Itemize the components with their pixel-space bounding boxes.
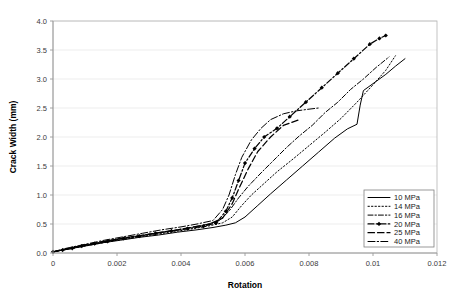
legend-label: 25 MPa (394, 228, 421, 237)
y-tick-label: 3.0 (37, 75, 47, 84)
y-tick-label: 3.5 (37, 46, 47, 55)
legend-label: 10 MPa (394, 193, 421, 202)
chart-background (0, 0, 462, 300)
y-tick-label: 1.5 (37, 162, 47, 171)
x-tick-label: 0.002 (108, 259, 127, 268)
x-tick-label: 0.008 (300, 259, 319, 268)
crack-width-rotation-chart: 0.00.51.01.52.02.53.03.54.000.0020.0040.… (0, 0, 462, 300)
y-tick-label: 0.5 (37, 220, 47, 229)
x-tick-label: 0.004 (172, 259, 191, 268)
x-tick-label: 0 (51, 259, 55, 268)
y-tick-label: 2.0 (37, 133, 47, 142)
legend-label: 14 MPa (394, 202, 421, 211)
chart-legend: 10 MPa14 MPa16 MPa20 MPa25 MPa40 MPa (364, 190, 434, 247)
y-tick-label: 1.0 (37, 191, 47, 200)
legend-label: 20 MPa (394, 220, 421, 229)
y-tick-label: 2.5 (37, 104, 47, 113)
chart-svg: 0.00.51.01.52.02.53.03.54.000.0020.0040.… (0, 0, 462, 300)
y-axis-title: Crack Width (mm) (8, 101, 18, 174)
x-tick-label: 0.006 (236, 259, 255, 268)
x-tick-label: 0.012 (428, 259, 447, 268)
x-tick-label: 0.01 (366, 259, 381, 268)
y-tick-label: 0.0 (37, 249, 47, 258)
x-axis-title: Rotation (228, 280, 262, 290)
y-tick-label: 4.0 (37, 17, 47, 26)
legend-label: 16 MPa (394, 211, 421, 220)
legend-label: 40 MPa (394, 237, 421, 246)
